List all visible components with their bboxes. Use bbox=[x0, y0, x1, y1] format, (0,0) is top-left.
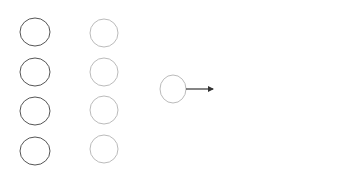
layer2-node-a1 bbox=[90, 19, 118, 47]
neural-network-diagram bbox=[0, 0, 349, 195]
layer2-node-a2 bbox=[90, 58, 118, 86]
layer2 bbox=[90, 19, 118, 163]
layer1-node-x1 bbox=[20, 18, 50, 46]
layer1-node-x2 bbox=[20, 58, 50, 86]
layer1-node-bias bbox=[20, 137, 50, 165]
layer1-node-x3 bbox=[20, 97, 50, 125]
layer1 bbox=[20, 18, 50, 165]
layer3 bbox=[160, 75, 213, 103]
layer2-node-bias bbox=[90, 135, 118, 163]
layer2-node-a3 bbox=[90, 96, 118, 124]
layer3-output-node bbox=[160, 75, 186, 103]
